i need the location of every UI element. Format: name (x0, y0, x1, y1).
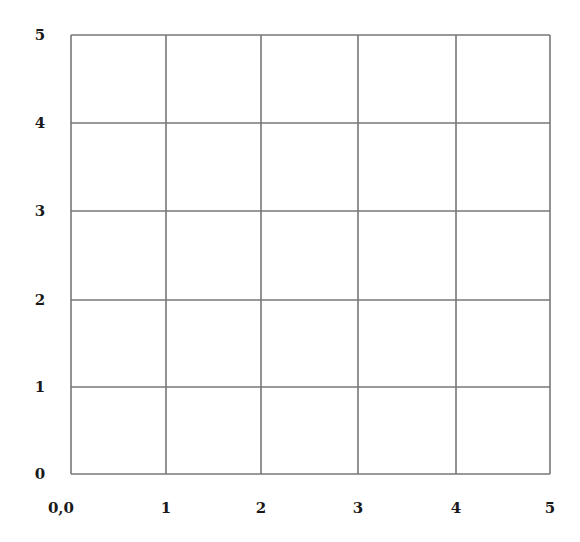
y-tick-label: 4 (35, 114, 45, 132)
y-tick-label: 3 (35, 202, 45, 220)
x-tick-label: 2 (256, 499, 266, 517)
x-tick-label: 4 (451, 499, 461, 517)
y-tick-label: 2 (35, 291, 45, 309)
grid-lines (71, 35, 550, 474)
y-tick-label: 0 (35, 465, 45, 483)
x-tick-label: 5 (545, 499, 555, 517)
x-tick-label: 0,0 (48, 499, 74, 517)
x-tick-label: 1 (161, 499, 171, 517)
x-tick-label: 3 (353, 499, 363, 517)
y-tick-label: 1 (35, 378, 45, 396)
y-tick-label: 5 (35, 26, 45, 44)
y-axis-tick-labels: 012345 (35, 26, 45, 483)
coordinate-grid-chart: 0,012345 012345 (0, 0, 580, 542)
x-axis-tick-labels: 0,012345 (48, 499, 555, 517)
